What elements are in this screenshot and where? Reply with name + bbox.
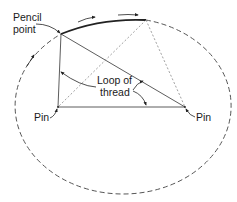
pencil-point-label-2: point <box>13 23 36 35</box>
thread-alt-right <box>146 20 185 107</box>
loop-label-2: thread <box>100 86 130 98</box>
pin-left-icon <box>57 106 59 108</box>
drawn-arc <box>61 20 146 34</box>
direction-arrow-1 <box>78 17 95 22</box>
loop-label-1: Loop of <box>97 74 132 86</box>
pin-left-leader <box>50 109 57 118</box>
ellipse-construction-diagram: Pencil point Loop of thread Pin Pin <box>0 0 237 202</box>
loop-leader-right-upper <box>133 81 143 90</box>
loop-leader-right-lower <box>133 91 146 105</box>
pin-left-label: Pin <box>34 111 49 123</box>
pencil-point-leader <box>36 24 60 33</box>
pin-right-icon <box>184 106 186 108</box>
pencil-point-label-1: Pencil <box>13 11 42 23</box>
pin-right-leader <box>186 109 195 117</box>
pin-right-label: Pin <box>196 111 211 123</box>
direction-arrow-left <box>27 55 34 66</box>
direction-arrow-2 <box>118 15 138 16</box>
